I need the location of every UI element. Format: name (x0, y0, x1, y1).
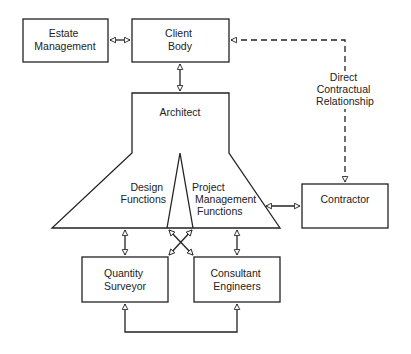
design-functions-label: Design Functions (120, 181, 166, 205)
estate-management-label: Estate Management (34, 27, 95, 52)
edge-qs-ce (125, 304, 237, 332)
project-management-functions-label: Project Management Functions (192, 181, 259, 217)
consultant-engineers-label: Consultant Engineers (210, 267, 263, 292)
quantity-surveyor-label: Quantity Surveyor (104, 267, 147, 292)
edge-direct-contractual (231, 40, 345, 182)
contractor-label: Contractor (320, 193, 370, 205)
organisation-diagram: Estate Management Client Body Architect … (0, 0, 411, 354)
client-body-label: Client Body (165, 27, 195, 52)
architect-label: Architect (160, 106, 201, 118)
functions-divider (167, 153, 193, 228)
contractor-box (302, 184, 388, 228)
